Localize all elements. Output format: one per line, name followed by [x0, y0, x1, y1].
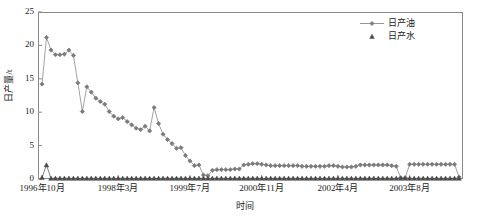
x-tick-label: 1996年10月 [20, 183, 65, 193]
legend-label: 日产水 [388, 31, 415, 42]
y-tick-label: 20 [4, 40, 34, 49]
legend-label: 日产油 [388, 18, 415, 29]
chart-legend: 日产油日产水 [359, 17, 457, 43]
y-tick-label: 5 [4, 141, 34, 150]
x-tick-label: 2003年8月 [389, 183, 430, 193]
triangle-marker-icon [359, 31, 385, 42]
legend-item-oil[interactable]: 日产油 [359, 17, 457, 30]
x-tick-label: 2000年11月 [239, 183, 284, 193]
x-axis-title: 时间 [0, 199, 489, 212]
legend-item-water[interactable]: 日产水 [359, 30, 457, 43]
chart-root: 0510152025 1996年10月1998年3月1999年7月2000年11… [0, 0, 489, 220]
y-tick-label: 25 [4, 7, 34, 16]
y-tick-label: 0 [4, 174, 34, 183]
series-oil [40, 35, 461, 179]
x-tick-label: 1998年3月 [98, 183, 139, 193]
y-axis-title: 日产量/t [2, 51, 15, 121]
x-tick-label: 2002年4月 [317, 183, 358, 193]
x-tick-label: 1999年7月 [169, 183, 210, 193]
diamond-marker-icon [359, 18, 385, 29]
